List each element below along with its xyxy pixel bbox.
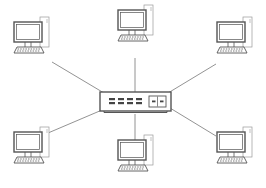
pc-top-left xyxy=(14,17,49,53)
keyboard-icon xyxy=(217,47,247,53)
pc-top-right xyxy=(217,17,252,53)
keyboard-icon xyxy=(217,157,247,163)
pc-top-center xyxy=(118,5,153,41)
screen-icon xyxy=(17,135,40,150)
port-icon xyxy=(118,98,124,100)
switch-icon xyxy=(100,92,171,113)
connection-line xyxy=(48,110,102,133)
connection-line xyxy=(170,108,216,136)
connection-line xyxy=(52,62,104,93)
port-icon xyxy=(118,102,124,104)
screen-icon xyxy=(121,13,144,28)
port-icon xyxy=(136,98,142,100)
port-icon xyxy=(109,102,115,104)
screen-icon xyxy=(17,25,40,40)
connection-line xyxy=(168,64,216,93)
screen-icon xyxy=(220,25,243,40)
network-topology-diagram xyxy=(0,0,266,188)
port-icon xyxy=(109,98,115,100)
keyboard-icon xyxy=(118,165,148,171)
pc-bottom-left xyxy=(14,127,49,163)
screen-icon xyxy=(220,135,243,150)
screen-icon xyxy=(121,143,144,158)
pc-bottom-center xyxy=(118,135,153,171)
port-icon xyxy=(127,102,133,104)
port-icon xyxy=(136,102,142,104)
network-switch xyxy=(100,92,171,113)
pc-bottom-right xyxy=(217,127,252,163)
keyboard-icon xyxy=(118,35,148,41)
port-icon xyxy=(127,98,133,100)
keyboard-icon xyxy=(14,157,44,163)
keyboard-icon xyxy=(14,47,44,53)
computer-nodes xyxy=(14,5,252,171)
